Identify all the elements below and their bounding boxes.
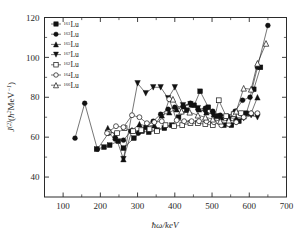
y-tick-label: 40 [31,172,41,182]
data-point-marker [249,111,254,116]
chart-background [0,0,308,236]
x-tick-label: 200 [94,201,108,211]
data-point-marker [174,118,179,123]
data-point-marker [73,136,78,141]
data-point-marker [197,119,202,124]
data-point-marker [115,131,120,136]
data-point-marker [255,111,260,116]
data-point-marker [54,22,58,26]
data-point-marker [265,23,270,28]
data-point-marker [137,115,142,120]
data-point-marker [82,101,87,106]
data-point-marker [54,63,58,67]
data-point-marker [159,119,164,124]
data-point-marker [105,131,110,136]
data-point-marker [147,127,152,132]
data-point-marker [102,145,107,150]
data-point-marker [155,129,160,134]
x-tick-label: 100 [56,201,70,211]
x-tick-label: 600 [243,201,257,211]
figure-container: 100200300400500600700406080100120 161Lu1… [0,0,308,236]
scatter-line-chart: 100200300400500600700406080100120 161Lu1… [0,0,308,236]
data-point-marker [182,119,187,124]
data-point-marker [189,119,194,124]
data-point-marker [107,143,112,148]
data-point-marker [241,115,246,120]
data-point-marker [224,114,229,119]
x-tick-label: 500 [205,201,219,211]
data-point-marker [131,129,136,134]
x-axis-title: ħω/keV [152,220,180,230]
data-point-marker [144,121,149,126]
y-tick-label: 80 [31,92,41,102]
data-point-marker [130,113,135,118]
data-point-marker [139,128,144,133]
data-point-marker [95,147,100,152]
data-point-marker [54,73,58,77]
y-tick-label: 120 [26,13,40,23]
data-point-marker [216,98,221,103]
data-point-marker [131,136,136,141]
y-tick-label: 100 [26,53,40,63]
data-point-marker [248,95,253,100]
data-point-marker [121,125,126,130]
data-point-marker [121,138,126,143]
data-point-marker [54,32,58,36]
data-point-marker [234,120,239,125]
x-tick-label: 400 [168,201,182,211]
x-tick-label: 300 [131,201,145,211]
x-tick-label: 700 [280,201,294,211]
data-point-marker [240,98,245,103]
data-point-marker [152,120,157,125]
data-point-marker [172,124,177,129]
data-point-marker [198,89,203,94]
data-point-marker [163,123,168,128]
y-tick-label: 60 [31,132,41,142]
data-point-marker [114,124,119,129]
